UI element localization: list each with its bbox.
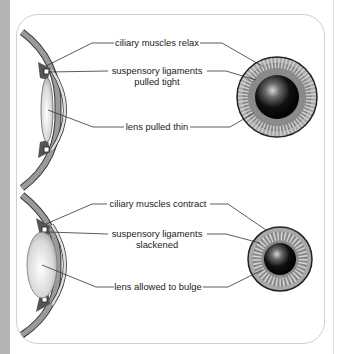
label-ciliary-contract: ciliary muscles contract bbox=[110, 198, 207, 209]
eye-front-view-contracted bbox=[248, 227, 312, 291]
eye-front-view-relaxed bbox=[237, 57, 317, 137]
label-ligaments-line1: suspensory ligaments bbox=[112, 228, 203, 239]
label-lens-thin: lens pulled thin bbox=[126, 121, 189, 132]
label-lens-bulge: lens allowed to bulge bbox=[114, 281, 202, 292]
label-ligaments-line1: suspensory ligaments bbox=[112, 65, 203, 76]
label-ligaments-line2: slackened bbox=[136, 239, 178, 250]
eye-side-view-relaxed bbox=[22, 32, 65, 188]
accommodation-diagram: ciliary muscles relax suspensory ligamen… bbox=[0, 0, 337, 354]
labels-relaxed: ciliary muscles relax suspensory ligamen… bbox=[112, 37, 203, 132]
labels-contracted: ciliary muscles contract suspensory liga… bbox=[110, 198, 207, 292]
label-ligaments-line2: pulled tight bbox=[134, 76, 180, 87]
eye-side-view-contracted bbox=[22, 195, 65, 335]
label-ciliary-relax: ciliary muscles relax bbox=[115, 37, 199, 48]
